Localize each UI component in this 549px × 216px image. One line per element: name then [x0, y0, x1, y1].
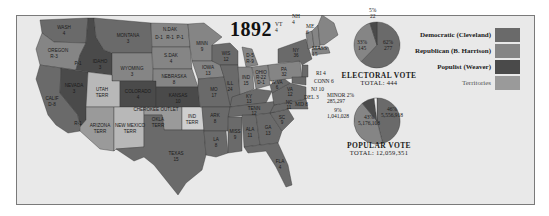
svg-text:4: 4 [279, 165, 282, 170]
svg-text:TERR: TERR [186, 120, 199, 125]
svg-text:8: 8 [215, 143, 218, 148]
label-conn: CONN 6 [314, 79, 334, 85]
svg-text:12: 12 [223, 57, 229, 62]
state-south-dakota[interactable] [152, 47, 192, 69]
svg-text:12: 12 [287, 92, 293, 97]
label-wash: WASH [57, 25, 71, 30]
state-florida[interactable] [244, 143, 292, 187]
pv-minor-label: MINOR 2%285,297 [327, 93, 354, 105]
svg-text:NEVADA: NEVADA [65, 83, 84, 88]
svg-text:TERR: TERR [152, 123, 165, 128]
svg-text:ALA: ALA [246, 127, 256, 132]
svg-text:12: 12 [251, 111, 257, 116]
svg-text:IND: IND [188, 114, 197, 119]
svg-text:D-1: D-1 [155, 35, 163, 40]
svg-text:6: 6 [276, 85, 279, 90]
svg-text:13: 13 [205, 71, 211, 76]
svg-text:32: 32 [281, 72, 287, 77]
svg-text:TERR: TERR [96, 93, 109, 98]
label-nh: NH4 [292, 14, 300, 26]
svg-text:36: 36 [293, 53, 299, 58]
svg-text:P-1: P-1 [74, 61, 82, 66]
svg-text:15: 15 [243, 81, 249, 86]
svg-text:4: 4 [63, 31, 66, 36]
svg-text:9: 9 [201, 47, 204, 52]
svg-text:9: 9 [281, 120, 284, 125]
ev-populist-label: 5%22 [369, 8, 376, 20]
svg-text:3: 3 [73, 89, 76, 94]
svg-text:3: 3 [127, 39, 130, 44]
label-nj: NJ 10 [311, 87, 324, 93]
svg-text:MO: MO [210, 87, 218, 92]
svg-text:D-8: D-8 [48, 102, 56, 107]
svg-text:IOWA: IOWA [202, 65, 215, 70]
ev-democratic-label: 62%277 [383, 40, 393, 52]
svg-text:8: 8 [214, 119, 217, 124]
us-map-1892: WASH 4 OREGON R-3 P-1 CALIF D-8 R-1 NEVA… [16, 15, 346, 205]
svg-text:ARIZONA: ARIZONA [90, 123, 111, 128]
svg-text:D-5: D-5 [246, 53, 254, 58]
svg-text:MISS: MISS [229, 129, 240, 134]
svg-text:KANSAS: KANSAS [169, 93, 188, 98]
svg-text:OREGON: OREGON [48, 48, 68, 53]
svg-text:NEBRASKA: NEBRASKA [161, 74, 187, 79]
svg-text:11: 11 [287, 105, 292, 110]
svg-text:TERR: TERR [94, 129, 107, 134]
svg-text:TEXAS: TEXAS [168, 151, 183, 156]
swatch-democratic [495, 28, 520, 42]
ev-republican-label: 33%145 [357, 40, 367, 52]
label-del: DEL 3 [304, 95, 319, 101]
svg-text:ILL: ILL [227, 81, 234, 86]
popular-vote-total: TOTAL: 12,059,351 [335, 150, 423, 157]
svg-text:ARK: ARK [210, 113, 220, 118]
svg-text:COLORADO: COLORADO [125, 89, 152, 94]
legend-item-republican: Republican (B. Harrison) [415, 44, 520, 58]
legend-item-territories: Territories [462, 76, 520, 90]
pv-republican-label: 43%5,176,108 [358, 115, 380, 127]
svg-text:S.DAK: S.DAK [164, 53, 179, 58]
svg-text:R-1: R-1 [74, 121, 82, 126]
svg-text:17: 17 [211, 93, 217, 98]
svg-text:LA: LA [213, 137, 220, 142]
svg-text:10: 10 [175, 99, 181, 104]
svg-text:MINN: MINN [196, 41, 208, 46]
map-title: 1892 [230, 18, 272, 41]
svg-text:OKLA: OKLA [152, 117, 165, 122]
svg-text:13: 13 [265, 131, 271, 136]
swatch-republican [495, 44, 520, 58]
legend-item-populist: Populist (Weaver) [437, 60, 520, 74]
svg-text:CALIF: CALIF [45, 96, 58, 101]
svg-text:4: 4 [170, 59, 173, 64]
svg-text:UTAH: UTAH [96, 87, 108, 92]
svg-text:IND: IND [242, 75, 251, 80]
label-mass: MASS15 [312, 46, 327, 58]
svg-text:R-3: R-3 [50, 54, 58, 59]
electoral-vote-total: TOTAL: 444 [335, 80, 423, 87]
svg-text:8: 8 [173, 80, 176, 85]
svg-text:CHEROKEE OUTLET: CHEROKEE OUTLET [133, 107, 178, 112]
svg-text:GA: GA [265, 125, 273, 130]
electoral-vote-caption: ELECTORAL VOTE TOTAL: 444 [335, 72, 423, 87]
label-me: ME6 [306, 24, 314, 36]
legend-item-democratic: Democratic (Cleveland) [420, 28, 520, 42]
state-maryland-delaware[interactable] [292, 77, 306, 85]
svg-text:MONTANA: MONTANA [117, 33, 141, 38]
svg-text:P-1: P-1 [176, 35, 184, 40]
svg-text:9: 9 [234, 135, 237, 140]
svg-text:TERR: TERR [124, 129, 137, 134]
svg-text:NEW MEXICO: NEW MEXICO [115, 123, 146, 128]
svg-text:D-1: D-1 [257, 80, 265, 85]
svg-text:11: 11 [248, 133, 253, 138]
label-md: MD 8 [295, 102, 308, 108]
label-vt: VT4 [275, 22, 282, 34]
state-colorado[interactable] [120, 81, 156, 107]
label-ri: RI 4 [316, 71, 326, 77]
pv-democratic-label: 46%5,556,918 [381, 107, 403, 119]
svg-text:13: 13 [246, 99, 252, 104]
state-maine[interactable] [318, 15, 338, 45]
svg-text:3: 3 [99, 65, 102, 70]
svg-text:WYOMING: WYOMING [121, 66, 144, 71]
state-new-jersey[interactable] [302, 65, 308, 77]
svg-text:R-9: R-9 [246, 59, 254, 64]
popular-vote-caption: POPULAR VOTE TOTAL: 12,059,351 [335, 142, 423, 157]
